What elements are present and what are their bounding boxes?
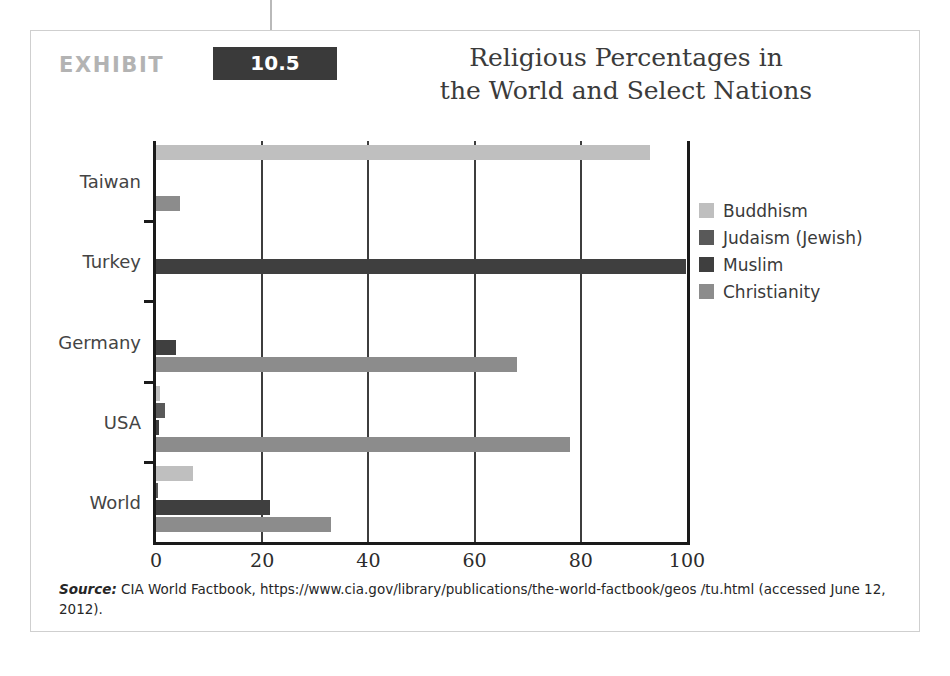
category-label: Taiwan	[80, 171, 141, 192]
legend-swatch-icon	[699, 203, 714, 218]
category-tick	[144, 220, 156, 223]
category-axis-labels: TaiwanTurkeyGermanyUSAWorld	[31, 141, 141, 542]
title-line-1: Religious Percentages in	[361, 41, 891, 74]
exhibit-header: EXHIBIT 10.5 Religious Percentages in th…	[31, 31, 919, 117]
legend-label: Muslim	[723, 255, 783, 275]
x-tick-label: 20	[250, 549, 274, 571]
bar	[156, 403, 165, 418]
bar	[156, 500, 270, 515]
legend-swatch-icon	[699, 284, 714, 299]
exhibit-word-label: EXHIBIT	[59, 53, 164, 77]
legend-item: Judaism (Jewish)	[699, 224, 909, 251]
x-tick-label: 40	[356, 549, 380, 571]
x-tick-label: 80	[569, 549, 593, 571]
chart-legend: BuddhismJudaism (Jewish)MuslimChristiani…	[699, 197, 909, 305]
gridline	[474, 141, 476, 542]
gridline	[580, 141, 582, 542]
legend-item: Muslim	[699, 251, 909, 278]
bar	[156, 437, 570, 452]
bar-chart: TaiwanTurkeyGermanyUSAWorld 020406080100	[31, 117, 921, 587]
category-label: Turkey	[82, 251, 141, 272]
bar	[156, 483, 158, 498]
bar	[156, 420, 159, 435]
page-margin-rule	[270, 0, 272, 30]
title-line-2: the World and Select Nations	[361, 74, 891, 107]
exhibit-container: EXHIBIT 10.5 Religious Percentages in th…	[30, 30, 920, 632]
source-label: Source:	[59, 581, 117, 597]
category-tick	[144, 461, 156, 464]
legend-label: Christianity	[723, 282, 820, 302]
page-title: Religious Percentages in the World and S…	[361, 41, 891, 107]
gridline	[261, 141, 263, 542]
legend-label: Judaism (Jewish)	[723, 228, 863, 248]
exhibit-number-label: 10.5	[213, 47, 337, 80]
legend-item: Christianity	[699, 278, 909, 305]
category-label: USA	[104, 411, 141, 432]
category-tick	[144, 381, 156, 384]
bar	[156, 259, 686, 274]
source-note: Source: CIA World Factbook, https://www.…	[59, 579, 889, 619]
category-label: Germany	[58, 331, 141, 352]
bar	[156, 357, 517, 372]
legend-label: Buddhism	[723, 201, 808, 221]
x-tick-label: 0	[150, 549, 162, 571]
bar	[156, 386, 160, 401]
plot-area: 020406080100	[153, 141, 690, 545]
legend-swatch-icon	[699, 257, 714, 272]
legend-item: Buddhism	[699, 197, 909, 224]
category-tick	[144, 300, 156, 303]
legend-swatch-icon	[699, 230, 714, 245]
bar	[156, 466, 193, 481]
exhibit-number-badge: 10.5	[213, 47, 337, 80]
bar	[156, 145, 650, 160]
x-tick-label: 100	[669, 549, 705, 571]
bar	[156, 340, 176, 355]
x-tick-label: 60	[463, 549, 487, 571]
bar	[156, 196, 180, 211]
category-label: World	[89, 491, 141, 512]
gridline	[367, 141, 369, 542]
source-text: CIA World Factbook, https://www.cia.gov/…	[59, 581, 886, 617]
bar	[156, 517, 331, 532]
